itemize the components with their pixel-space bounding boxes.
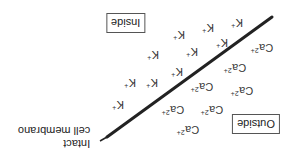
potassium-ion-symbol: K bbox=[176, 66, 183, 78]
calcium-ion: Ca2+ bbox=[251, 42, 274, 54]
calcium-ion-charge: 2+ bbox=[177, 129, 185, 136]
potassium-ion-charge: + bbox=[173, 34, 177, 41]
calcium-ion: Ca2+ bbox=[177, 124, 200, 136]
calcium-ion-symbol: Ca bbox=[170, 104, 184, 116]
membrane-diagram: Inside Outside Intact cell membrano K+K+… bbox=[0, 0, 302, 163]
calcium-ion-charge: 2+ bbox=[231, 90, 239, 97]
potassium-ion-symbol: K bbox=[117, 99, 124, 111]
membrane-label: Intact cell membrano bbox=[18, 124, 90, 150]
calcium-ion-charge: 2+ bbox=[224, 67, 232, 74]
potassium-ion-symbol: K bbox=[178, 29, 185, 41]
potassium-ion-charge: + bbox=[202, 27, 206, 34]
membrane-pointer-line bbox=[100, 137, 107, 141]
outside-region-label: Outside bbox=[232, 114, 280, 134]
potassium-ion: K+ bbox=[231, 17, 243, 29]
calcium-ion-charge: 2+ bbox=[201, 109, 209, 116]
calcium-ion-symbol: Ca bbox=[185, 124, 199, 136]
calcium-ion-symbol: Ca bbox=[259, 42, 273, 54]
potassium-ion: K+ bbox=[173, 29, 185, 41]
calcium-ion-charge: 2+ bbox=[162, 109, 170, 116]
calcium-ion-symbol: Ca bbox=[232, 62, 246, 74]
potassium-ion-charge: + bbox=[146, 82, 150, 89]
potassium-ion-symbol: K bbox=[191, 46, 198, 58]
potassium-ion-charge: + bbox=[186, 51, 190, 58]
potassium-ion-symbol: K bbox=[151, 77, 158, 89]
potassium-ion: K+ bbox=[186, 46, 198, 58]
potassium-ion: K+ bbox=[112, 99, 124, 111]
potassium-ion-charge: + bbox=[147, 54, 151, 61]
potassium-ion-charge: + bbox=[124, 82, 128, 89]
potassium-ion-symbol: K bbox=[207, 22, 214, 34]
potassium-ion: K+ bbox=[124, 77, 136, 89]
membrane-label-line1: Intact bbox=[18, 137, 90, 150]
calcium-ion: Ca2+ bbox=[231, 85, 254, 97]
calcium-ion: Ca2+ bbox=[224, 62, 247, 74]
inside-region-label: Inside bbox=[106, 13, 145, 33]
calcium-ion: Ca2+ bbox=[201, 104, 224, 116]
calcium-ion: Ca2+ bbox=[162, 104, 185, 116]
calcium-ion-charge: 2+ bbox=[251, 47, 259, 54]
calcium-ion-symbol: Ca bbox=[239, 85, 253, 97]
potassium-ion: K+ bbox=[146, 77, 158, 89]
potassium-ion-charge: + bbox=[216, 42, 220, 49]
potassium-ion-symbol: K bbox=[129, 77, 136, 89]
potassium-ion-symbol: K bbox=[152, 49, 159, 61]
potassium-ion-charge: + bbox=[171, 71, 175, 78]
calcium-ion-charge: 2+ bbox=[191, 86, 199, 93]
potassium-ion: K+ bbox=[216, 37, 228, 49]
potassium-ion-charge: + bbox=[112, 104, 116, 111]
potassium-ion: K+ bbox=[202, 22, 214, 34]
potassium-ion: K+ bbox=[171, 66, 183, 78]
calcium-ion-symbol: Ca bbox=[209, 104, 223, 116]
calcium-ion: Ca2+ bbox=[191, 81, 214, 93]
potassium-ion-symbol: K bbox=[236, 17, 243, 29]
potassium-ion: K+ bbox=[147, 49, 159, 61]
potassium-ion-charge: + bbox=[231, 22, 235, 29]
membrane-label-line2: cell membrano bbox=[18, 124, 90, 137]
calcium-ion-symbol: Ca bbox=[199, 81, 213, 93]
potassium-ion-symbol: K bbox=[221, 37, 228, 49]
